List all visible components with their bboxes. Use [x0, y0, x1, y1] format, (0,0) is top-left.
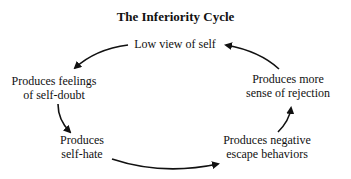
arrow-escape-to-rejection [278, 108, 291, 132]
arrow-self-doubt-to-self-hate [58, 104, 70, 132]
node-label: Produces negative [214, 133, 320, 147]
arrow-low-view-to-self-doubt [75, 45, 128, 68]
node-label: Produces feelings [2, 74, 106, 88]
arrow-self-hate-to-escape [112, 159, 218, 169]
node-low-view: Low view of self [130, 37, 220, 51]
node-self-doubt: Produces feelings of self-doubt [2, 74, 106, 102]
node-label: Low view of self [130, 37, 220, 51]
node-escape: Produces negative escape behaviors [214, 133, 320, 161]
node-label: Produces more [238, 72, 338, 86]
node-label: sense of rejection [238, 86, 338, 100]
node-label: self-hate [50, 147, 114, 161]
node-rejection: Produces more sense of rejection [238, 72, 338, 100]
node-label: escape behaviors [214, 147, 320, 161]
node-label: Produces [50, 133, 114, 147]
arrow-rejection-to-low-view [226, 45, 279, 69]
node-label: of self-doubt [2, 88, 106, 102]
node-self-hate: Produces self-hate [50, 133, 114, 161]
